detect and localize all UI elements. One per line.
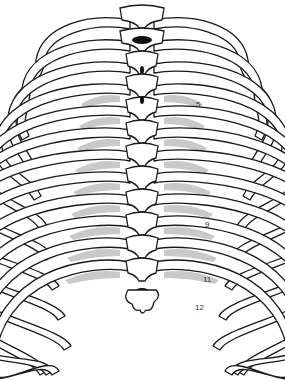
ribs-right bbox=[154, 18, 285, 379]
rib-cage-svg: 5 9 11 12 bbox=[0, 0, 285, 381]
vertebral-canal bbox=[140, 66, 144, 74]
vertebra bbox=[126, 189, 158, 212]
rib-label-5: 5 bbox=[196, 100, 201, 109]
vertebra bbox=[126, 143, 158, 166]
vertebral-canal bbox=[140, 96, 144, 104]
rib-label-11: 11 bbox=[203, 275, 212, 284]
rib-label-12: 12 bbox=[195, 303, 204, 312]
vertebral-canal bbox=[132, 36, 152, 44]
vertebra bbox=[126, 166, 158, 189]
vertebra bbox=[126, 120, 158, 143]
vertebra bbox=[126, 212, 158, 235]
vertebra bbox=[126, 258, 158, 281]
vertebra bbox=[126, 74, 158, 97]
lowest-vertebra bbox=[126, 290, 159, 313]
rib-label-9: 9 bbox=[205, 220, 210, 229]
vertebra bbox=[126, 235, 158, 258]
ribs-left bbox=[0, 18, 130, 379]
rib-cage-illustration: 5 9 11 12 bbox=[0, 0, 285, 381]
